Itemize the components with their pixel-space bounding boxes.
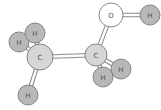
molecule-canvas: HOCHHHCHH [0,0,161,110]
carbon-atom-c2: C [85,44,107,66]
atom-label: H [118,66,123,74]
ethanol-molecule-diagram: HOCHHHCHH [0,0,161,110]
atom-label: O [108,12,114,20]
atom-label: H [100,74,105,82]
atom-label: C [94,52,99,60]
oxygen-atom-o: O [99,3,123,27]
atom-label: H [25,92,30,100]
atom-label: H [147,12,152,20]
atom-label: H [16,39,21,47]
hydrogen-atom-h2: H [25,23,45,43]
hydrogen-atom-h1: H [140,5,160,25]
carbon-atom-c1: C [27,44,53,70]
hydrogen-atom-h5: H [111,59,131,79]
hydrogen-atom-h4: H [18,85,38,105]
hydrogen-atom-h6: H [93,67,113,87]
atom-label: H [32,30,37,38]
atom-label: C [38,54,43,62]
